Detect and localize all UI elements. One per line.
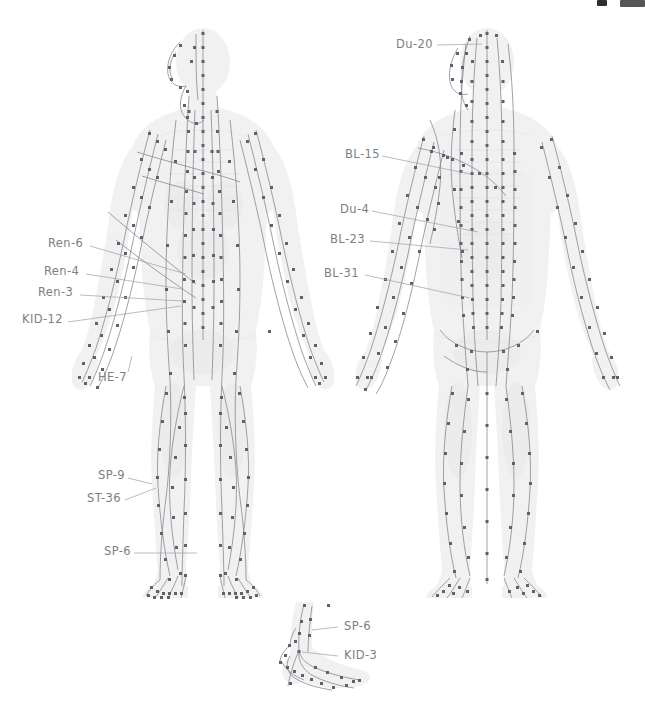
front-figure — [71, 28, 334, 599]
label-st-36[interactable]: ST-36 — [87, 493, 121, 505]
back-figure — [355, 28, 620, 598]
foot-inset-figure — [279, 602, 370, 690]
leader-he-7 — [128, 356, 132, 372]
leader-inset-sp-6 — [312, 627, 338, 630]
leader-st-36 — [125, 488, 156, 500]
label-bl-23[interactable]: BL-23 — [330, 234, 365, 246]
label-sp-9[interactable]: SP-9 — [98, 470, 125, 482]
label-leader-lines — [68, 44, 482, 656]
label-kid-3-inset[interactable]: KID-3 — [344, 650, 377, 662]
figures-layer — [0, 0, 645, 715]
label-ren-4[interactable]: Ren-4 — [44, 266, 79, 278]
leader-sp-9 — [128, 478, 152, 484]
chart-canvas: Ren-6 Ren-4 Ren-3 KID-12 HE-7 SP-9 ST-36… — [0, 0, 645, 715]
label-ren-6[interactable]: Ren-6 — [48, 238, 83, 250]
label-bl-15[interactable]: BL-15 — [345, 149, 380, 161]
label-du-20[interactable]: Du-20 — [396, 39, 433, 51]
label-sp-6-inset[interactable]: SP-6 — [344, 621, 371, 633]
label-he-7[interactable]: HE-7 — [98, 372, 127, 384]
label-du-4[interactable]: Du-4 — [340, 204, 369, 216]
label-bl-31[interactable]: BL-31 — [324, 268, 359, 280]
label-sp-6-front[interactable]: SP-6 — [104, 546, 131, 558]
label-kid-12[interactable]: KID-12 — [22, 314, 63, 326]
label-ren-3[interactable]: Ren-3 — [38, 287, 73, 299]
